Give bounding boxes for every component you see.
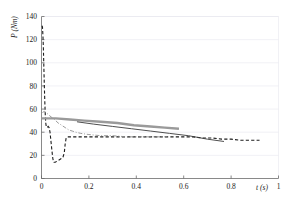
chart-plot-area: 02040608010012014000.20.40.60.81 P (Nm) … xyxy=(0,0,288,203)
x-tick-label: 0.8 xyxy=(226,182,236,191)
x-tick-label: 1 xyxy=(277,182,281,191)
x-tick-label: 0.2 xyxy=(84,182,94,191)
series-black-dashed-curve xyxy=(42,26,260,163)
y-axis-title: P (Nm) xyxy=(10,16,19,39)
x-tick-label: 0.6 xyxy=(179,182,189,191)
y-tick-label: 20 xyxy=(30,151,38,160)
tick-labels-group: 02040608010012014000.20.40.60.81 xyxy=(26,12,281,190)
gridlines-group xyxy=(42,17,279,156)
series-group xyxy=(42,26,260,163)
x-tick-label: 0.4 xyxy=(132,182,142,191)
x-tick-label: 0 xyxy=(40,182,44,191)
axis-titles-group: P (Nm) t (s) xyxy=(10,16,268,192)
y-tick-label: 80 xyxy=(30,82,38,91)
y-tick-label: 100 xyxy=(26,58,38,67)
chart-figure: 02040608010012014000.20.40.60.81 P (Nm) … xyxy=(0,0,288,203)
x-axis-title: t (s) xyxy=(256,183,268,192)
series-gray-dashdot-curve xyxy=(42,111,167,136)
tickmarks-group xyxy=(42,17,279,179)
y-tick-label: 40 xyxy=(30,128,38,137)
y-tick-label: 140 xyxy=(26,12,38,21)
y-tick-label: 60 xyxy=(30,105,38,114)
series-dark-thin-line xyxy=(77,122,224,142)
series-gray-thick-line xyxy=(42,118,179,128)
axis-lines-group xyxy=(42,17,279,179)
y-tick-label: 120 xyxy=(26,35,38,44)
y-tick-label: 0 xyxy=(33,174,37,183)
